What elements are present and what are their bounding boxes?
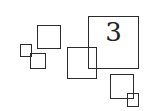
diagram-canvas: 3 [0,0,154,111]
square-c-small [30,53,46,69]
square-a [37,25,61,49]
square-f-small [127,93,139,107]
square-label: 3 [89,19,138,45]
square-large-labeled: 3 [88,16,139,69]
